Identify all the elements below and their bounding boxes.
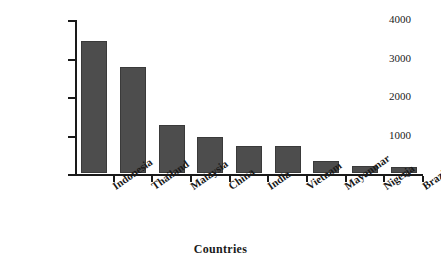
x-category-label: Vietnam bbox=[304, 182, 311, 192]
y-tick-label: 4000 bbox=[371, 14, 411, 25]
x-category-label: Malaysia bbox=[188, 182, 195, 192]
x-category-label: Thailand bbox=[149, 182, 156, 192]
y-tick-label: 2000 bbox=[371, 91, 411, 102]
bar bbox=[275, 146, 301, 173]
x-category-label: Brazil bbox=[420, 182, 427, 192]
bar-chart-figure: Area in '000 ha 01000200030004000 Indone… bbox=[0, 0, 441, 266]
y-tick-label: 3000 bbox=[371, 53, 411, 64]
y-tick-mark bbox=[68, 97, 75, 99]
plot-area: 01000200030004000 bbox=[75, 20, 423, 174]
y-tick-label: 1000 bbox=[371, 130, 411, 141]
bar bbox=[120, 67, 146, 173]
y-tick-mark bbox=[68, 174, 75, 176]
bar bbox=[81, 41, 107, 173]
x-category-label: Nigeria bbox=[381, 182, 388, 192]
y-tick-mark bbox=[68, 20, 75, 22]
x-category-label: India bbox=[265, 182, 272, 192]
y-tick-mark bbox=[68, 59, 75, 61]
x-category-label: Indonesia bbox=[110, 182, 117, 192]
x-category-label: Mayanmar bbox=[342, 182, 349, 192]
y-tick-mark bbox=[68, 136, 75, 138]
x-axis-title: Countries bbox=[0, 242, 441, 257]
y-axis-line bbox=[75, 20, 77, 175]
x-category-label: China bbox=[226, 182, 233, 192]
